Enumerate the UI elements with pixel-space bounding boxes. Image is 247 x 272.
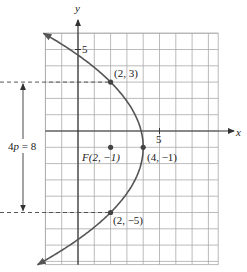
latus-rectum-label: 4p = 8: [8, 140, 37, 152]
point-label-2-neg5: (2, −5): [113, 214, 143, 227]
x-tick-label-5: 5: [156, 133, 162, 145]
focus-label-text: F(2, −1): [81, 151, 120, 164]
axes: [45, 20, 234, 265]
y-tick-label-5: 5: [82, 43, 88, 55]
parabola-figure: x y 5 5 (2, 3) (2, −5) (4, −1) F(2, −1) …: [0, 0, 247, 272]
vertex-label: (4, −1): [147, 151, 177, 164]
point-label-2-3: (2, 3): [114, 67, 138, 80]
focus-label: F(2, −1): [81, 151, 120, 164]
x-axis-label: x: [235, 126, 241, 138]
focus-point: [108, 145, 113, 150]
y-axis-label: y: [74, 2, 80, 14]
vertex-point: [141, 145, 146, 150]
latus-suffix: = 8: [19, 140, 37, 152]
point-2-3: [108, 80, 113, 85]
